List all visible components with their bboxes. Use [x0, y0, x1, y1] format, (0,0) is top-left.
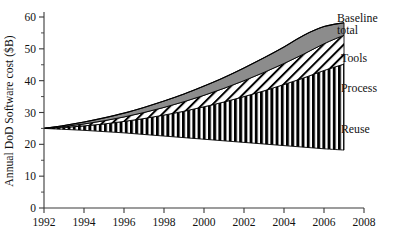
x-tick-label: 2004 [273, 216, 296, 228]
x-tick-label: 1994 [73, 216, 96, 228]
chart-container: 0102030405060 19921994199619982000200220… [0, 0, 398, 247]
y-tick-label: 30 [25, 107, 37, 119]
x-tick-label: 2000 [193, 216, 216, 228]
y-tick-label: 60 [25, 11, 37, 23]
x-axis-tick-labels: 199219941996199820002002200420062008 [33, 216, 376, 228]
x-tick-label: 1998 [153, 216, 176, 228]
x-tick-label: 2006 [313, 216, 336, 228]
callout-reuse: Reuse [341, 122, 370, 136]
x-tick-label: 2008 [353, 216, 376, 228]
x-tick-label: 2002 [233, 216, 256, 228]
y-tick-label: 0 [30, 202, 36, 214]
callout-tools: Tools [341, 51, 367, 65]
y-tick-label: 50 [25, 43, 37, 55]
y-tick-label: 20 [25, 138, 37, 150]
y-axis-title: Annual DoD Software cost ($B) [3, 35, 16, 186]
dod-software-cost-area-chart: 0102030405060 19921994199619982000200220… [0, 0, 398, 247]
callout-baseline-total-line2: total [337, 23, 359, 37]
callout-process: Process [341, 81, 377, 95]
x-tick-label: 1996 [113, 216, 136, 228]
x-tick-label: 1992 [33, 216, 56, 228]
y-tick-label: 40 [25, 75, 37, 87]
y-tick-label: 10 [25, 170, 37, 182]
